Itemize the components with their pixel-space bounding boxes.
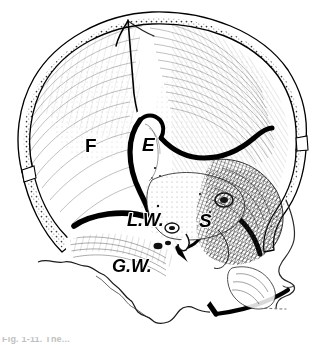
label-frontal: F bbox=[85, 135, 97, 156]
label-ethmoid: E bbox=[142, 134, 156, 155]
label-sella: S bbox=[199, 210, 212, 231]
skull-lateral-illustration: F E L.W. S G.W. bbox=[0, 0, 325, 345]
label-lesser-wing: L.W. bbox=[127, 210, 164, 230]
figure-caption-strip: Fig. 1-11. The... bbox=[0, 337, 325, 345]
figure-container: F E L.W. S G.W. Fig. 1-11. The... bbox=[0, 0, 325, 345]
label-greater-wing: G.W. bbox=[112, 256, 152, 276]
figure-caption: Fig. 1-11. The... bbox=[2, 337, 70, 344]
